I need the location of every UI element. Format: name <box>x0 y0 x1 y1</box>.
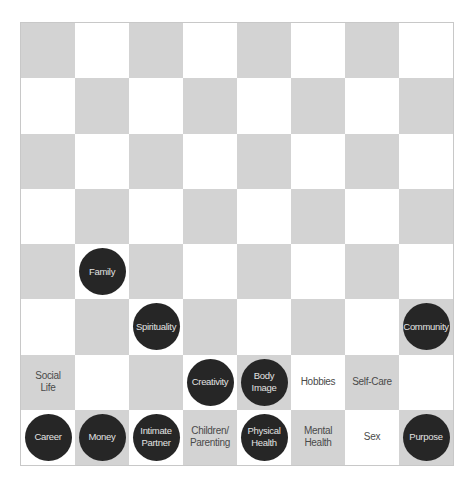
square-r4-c7 <box>399 244 453 299</box>
square-r3-c3 <box>183 189 237 244</box>
square-r6-c5: Hobbies <box>291 355 345 410</box>
piece-label: Family <box>89 266 115 278</box>
square-r2-c0 <box>21 134 75 189</box>
piece-intimate-partner[interactable]: Intimate Partner <box>133 414 180 461</box>
square-r1-c4 <box>237 78 291 133</box>
square-r6-c0: Social Life <box>21 355 75 410</box>
square-r7-c5: Mental Health <box>291 410 345 465</box>
square-r2-c4 <box>237 134 291 189</box>
square-r4-c6 <box>345 244 399 299</box>
square-r6-c1 <box>75 355 129 410</box>
square-r6-c3: Creativity <box>183 355 237 410</box>
square-r3-c1 <box>75 189 129 244</box>
piece-label: Community <box>403 321 448 333</box>
square-r6-c2 <box>129 355 183 410</box>
piece-community[interactable]: Community <box>403 303 450 350</box>
square-label-self-care: Self-Care <box>352 376 392 388</box>
square-r4-c3 <box>183 244 237 299</box>
square-r2-c3 <box>183 134 237 189</box>
piece-label: Body Image <box>252 370 277 394</box>
piece-label: Intimate Partner <box>140 425 171 449</box>
square-r2-c6 <box>345 134 399 189</box>
square-r7-c2: Intimate Partner <box>129 410 183 465</box>
piece-label: Purpose <box>409 431 442 443</box>
piece-label: Physical Health <box>248 425 281 449</box>
checkerboard: FamilySpiritualityCommunitySocial LifeCr… <box>20 22 454 466</box>
piece-spirituality[interactable]: Spirituality <box>133 303 180 350</box>
square-r0-c0 <box>21 23 75 78</box>
square-r6-c7 <box>399 355 453 410</box>
square-r5-c0 <box>21 299 75 354</box>
square-label-social-life: Social Life <box>35 370 60 394</box>
piece-career[interactable]: Career <box>25 414 72 461</box>
square-r6-c6: Self-Care <box>345 355 399 410</box>
square-r7-c7: Purpose <box>399 410 453 465</box>
square-r2-c2 <box>129 134 183 189</box>
square-r1-c2 <box>129 78 183 133</box>
square-r5-c1 <box>75 299 129 354</box>
piece-money[interactable]: Money <box>79 414 126 461</box>
piece-body-image[interactable]: Body Image <box>241 359 288 406</box>
square-r5-c7: Community <box>399 299 453 354</box>
square-r3-c5 <box>291 189 345 244</box>
square-r7-c0: Career <box>21 410 75 465</box>
square-r4-c4 <box>237 244 291 299</box>
square-r4-c1: Family <box>75 244 129 299</box>
square-r3-c0 <box>21 189 75 244</box>
square-r3-c4 <box>237 189 291 244</box>
square-label-children-parenting: Children/ Parenting <box>190 425 230 449</box>
square-r5-c2: Spirituality <box>129 299 183 354</box>
square-r0-c4 <box>237 23 291 78</box>
square-r0-c7 <box>399 23 453 78</box>
square-r1-c1 <box>75 78 129 133</box>
square-r7-c4: Physical Health <box>237 410 291 465</box>
square-r4-c2 <box>129 244 183 299</box>
piece-label: Spirituality <box>136 321 176 333</box>
square-r0-c1 <box>75 23 129 78</box>
piece-label: Career <box>34 431 61 443</box>
piece-label: Creativity <box>192 376 229 388</box>
square-r0-c3 <box>183 23 237 78</box>
square-r1-c5 <box>291 78 345 133</box>
square-r1-c3 <box>183 78 237 133</box>
square-r4-c0 <box>21 244 75 299</box>
piece-label: Money <box>88 431 115 443</box>
square-label-sex: Sex <box>364 431 380 443</box>
piece-purpose[interactable]: Purpose <box>403 414 450 461</box>
square-r7-c3: Children/ Parenting <box>183 410 237 465</box>
square-r1-c6 <box>345 78 399 133</box>
square-r3-c7 <box>399 189 453 244</box>
square-r1-c7 <box>399 78 453 133</box>
square-label-mental-health: Mental Health <box>304 425 332 449</box>
square-label-hobbies: Hobbies <box>301 376 336 388</box>
square-r5-c3 <box>183 299 237 354</box>
piece-creativity[interactable]: Creativity <box>187 359 234 406</box>
square-r1-c0 <box>21 78 75 133</box>
square-r7-c6: Sex <box>345 410 399 465</box>
square-r5-c5 <box>291 299 345 354</box>
piece-physical-health[interactable]: Physical Health <box>241 414 288 461</box>
square-r2-c1 <box>75 134 129 189</box>
square-r2-c5 <box>291 134 345 189</box>
square-r0-c6 <box>345 23 399 78</box>
square-r7-c1: Money <box>75 410 129 465</box>
square-r4-c5 <box>291 244 345 299</box>
square-r3-c2 <box>129 189 183 244</box>
square-r2-c7 <box>399 134 453 189</box>
square-r5-c6 <box>345 299 399 354</box>
piece-family[interactable]: Family <box>79 248 126 295</box>
square-r3-c6 <box>345 189 399 244</box>
square-r0-c5 <box>291 23 345 78</box>
square-r0-c2 <box>129 23 183 78</box>
square-r6-c4: Body Image <box>237 355 291 410</box>
square-r5-c4 <box>237 299 291 354</box>
